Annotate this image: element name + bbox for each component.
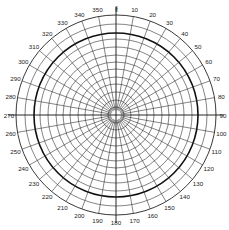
angle-label: 60 bbox=[205, 58, 212, 65]
angle-label: 330 bbox=[57, 19, 68, 26]
angle-label: 80 bbox=[218, 93, 225, 100]
angle-label: 210 bbox=[57, 204, 68, 211]
angle-label: 150 bbox=[164, 204, 175, 211]
angle-label: 260 bbox=[5, 130, 16, 137]
angle-label: 140 bbox=[180, 193, 191, 200]
angle-label: 320 bbox=[42, 30, 53, 37]
angle-label: 50 bbox=[195, 43, 202, 50]
spoke-line bbox=[99, 120, 115, 214]
angle-label: 190 bbox=[92, 217, 103, 224]
north-marker-icon: ∦ bbox=[115, 6, 118, 12]
angle-label: 350 bbox=[92, 6, 103, 13]
angle-label: 300 bbox=[18, 58, 29, 65]
angle-label: 10 bbox=[131, 6, 138, 13]
angle-label: 160 bbox=[147, 212, 158, 219]
angle-label: 270 bbox=[4, 112, 15, 119]
angle-label: 30 bbox=[166, 19, 173, 26]
angle-label: 240 bbox=[18, 165, 29, 172]
angle-label: 180 bbox=[111, 219, 122, 226]
angle-label: 230 bbox=[29, 180, 40, 187]
angle-label: 90 bbox=[220, 112, 227, 119]
spoke-line bbox=[18, 98, 112, 114]
spoke-line bbox=[121, 98, 215, 114]
spoke-line bbox=[117, 17, 133, 111]
angle-label: 340 bbox=[74, 11, 85, 18]
main-axes bbox=[8, 7, 224, 223]
angle-label: 280 bbox=[5, 93, 16, 100]
spoke-line bbox=[117, 120, 133, 214]
spoke-line bbox=[18, 116, 112, 132]
polar-grid-diagram: 3501020304050607080901001101201301401501… bbox=[0, 0, 229, 230]
angle-label: 290 bbox=[10, 75, 21, 82]
angle-label: 310 bbox=[29, 43, 40, 50]
angle-label: 20 bbox=[149, 11, 156, 18]
angle-label: 110 bbox=[212, 148, 222, 155]
spoke-line bbox=[121, 116, 215, 132]
angle-label: 200 bbox=[74, 212, 85, 219]
angle-label: 250 bbox=[10, 148, 21, 155]
angle-label: 130 bbox=[193, 180, 204, 187]
angle-label: 70 bbox=[213, 75, 220, 82]
angle-label: 120 bbox=[204, 165, 215, 172]
angle-label: 40 bbox=[181, 30, 188, 37]
angle-label: 100 bbox=[216, 130, 227, 137]
angle-label: 220 bbox=[42, 193, 53, 200]
angle-label: 170 bbox=[129, 217, 140, 224]
spoke-line bbox=[99, 17, 115, 111]
